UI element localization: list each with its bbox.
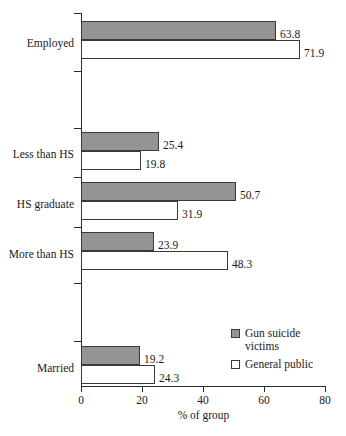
x-tick-label-60: 60 <box>249 394 279 407</box>
x-tick-label-0: 0 <box>66 394 96 407</box>
legend-item-gun-suicide-victims: Gun suicide victims <box>231 327 313 352</box>
bar-value-mths-pub: 48.3 <box>232 258 252 271</box>
category-label-married: Married <box>0 362 74 375</box>
bar-value-lths-pub: 19.8 <box>145 158 165 171</box>
bar-value-employed-pub: 71.9 <box>304 47 324 60</box>
bar-married-gun-suicide-victims <box>81 346 140 365</box>
y-axis-tick <box>74 71 81 72</box>
y-axis-tick <box>74 227 81 228</box>
legend-label-gun-suicide-victims: Gun suicide victims <box>245 327 300 352</box>
y-axis-tick <box>74 128 81 129</box>
x-axis-tick <box>142 386 143 392</box>
x-axis-tick <box>264 386 265 392</box>
y-axis-tick <box>74 283 81 284</box>
legend-swatch-gun-icon <box>231 329 240 338</box>
x-tick-label-40: 40 <box>188 394 218 407</box>
category-label-less-than-hs: Less than HS <box>0 148 74 161</box>
bar-more-than-hs-gun-suicide-victims <box>81 232 154 251</box>
bar-employed-gun-suicide-victims <box>81 21 276 40</box>
x-tick-label-80: 80 <box>310 394 340 407</box>
y-axis-tick <box>74 13 81 14</box>
bar-value-lths-gun: 25.4 <box>163 139 183 152</box>
x-axis-tick <box>203 386 204 392</box>
bar-less-than-hs-gun-suicide-victims <box>81 132 159 151</box>
bar-value-married-pub: 24.3 <box>159 372 179 385</box>
legend-label-general-public: General public <box>245 358 313 371</box>
bar-hs-graduate-general-public <box>81 201 178 220</box>
x-axis-title: % of group <box>81 409 326 421</box>
bar-less-than-hs-general-public <box>81 151 141 170</box>
legend-swatch-public-icon <box>231 360 240 369</box>
category-label-employed: Employed <box>0 37 74 50</box>
bar-chart: 0 20 40 60 80 % of group Employed 63.8 7… <box>0 0 346 436</box>
bar-employed-general-public <box>81 40 300 59</box>
x-axis-tick <box>325 386 326 392</box>
bar-more-than-hs-general-public <box>81 251 228 270</box>
x-tick-label-20: 20 <box>127 394 157 407</box>
category-label-more-than-hs: More than HS <box>0 248 74 261</box>
category-label-hs-graduate: HS graduate <box>0 198 74 211</box>
bar-value-hsgrad-pub: 31.9 <box>182 208 202 221</box>
legend: Gun suicide victims General public <box>231 327 313 377</box>
y-axis-tick <box>74 177 81 178</box>
y-axis-tick <box>74 341 81 342</box>
bar-hs-graduate-gun-suicide-victims <box>81 182 236 201</box>
legend-item-general-public: General public <box>231 358 313 371</box>
bar-value-hsgrad-gun: 50.7 <box>240 189 260 202</box>
x-axis-tick <box>81 386 82 392</box>
bar-married-general-public <box>81 365 155 384</box>
